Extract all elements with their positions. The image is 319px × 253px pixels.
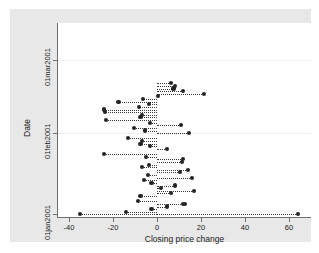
data-point xyxy=(138,194,142,198)
x-tick xyxy=(69,218,70,222)
x-tick-label: 60 xyxy=(269,223,309,232)
data-point xyxy=(142,178,146,182)
spike-line xyxy=(157,162,182,163)
data-point xyxy=(202,92,206,96)
data-point xyxy=(149,181,153,185)
y-tick-label: 01jan2001 xyxy=(43,205,52,240)
y-axis-title: Date xyxy=(22,119,32,137)
gridline xyxy=(58,60,311,61)
x-tick xyxy=(289,218,290,222)
spike-line xyxy=(143,99,157,100)
data-point xyxy=(147,163,151,167)
x-tick-label: 20 xyxy=(181,223,221,232)
spike-line xyxy=(157,133,189,134)
data-point xyxy=(137,105,141,109)
spike-line xyxy=(104,110,157,111)
spike-line xyxy=(126,212,157,213)
data-point xyxy=(165,147,169,151)
spike-line xyxy=(142,141,157,142)
data-point xyxy=(148,121,152,125)
x-tick-label: -40 xyxy=(49,223,89,232)
screenshot-root: -40-200204060 01jan200101feb200101mar200… xyxy=(0,0,319,253)
data-point xyxy=(140,165,144,169)
graph-region: -40-200204060 01jan200101feb200101mar200… xyxy=(10,9,311,242)
data-point xyxy=(173,84,177,88)
x-tick xyxy=(201,218,202,222)
spike-line xyxy=(142,167,157,168)
data-point xyxy=(169,191,173,195)
x-tick xyxy=(113,218,114,222)
spike-line xyxy=(157,191,194,192)
data-point xyxy=(141,97,145,101)
data-point xyxy=(140,139,144,143)
data-point xyxy=(102,152,106,156)
data-point xyxy=(178,170,182,174)
spike-line xyxy=(139,107,157,108)
data-point xyxy=(116,100,120,104)
data-point xyxy=(144,155,148,159)
spike-line xyxy=(119,102,158,103)
data-point xyxy=(140,113,144,117)
spike-line xyxy=(157,170,188,171)
data-point xyxy=(146,173,150,177)
data-point xyxy=(159,186,163,190)
data-point xyxy=(156,94,160,98)
spike-line xyxy=(157,125,181,126)
x-tick-label: -20 xyxy=(93,223,133,232)
plot-area xyxy=(58,23,311,217)
spike-line xyxy=(157,91,183,92)
x-axis-title: Closing price change xyxy=(58,234,311,244)
data-point xyxy=(124,210,128,214)
y-tick-label: 01feb2001 xyxy=(43,124,52,159)
x-tick xyxy=(245,218,246,222)
x-tick-label: 40 xyxy=(225,223,265,232)
spike-line xyxy=(157,178,192,179)
y-tick xyxy=(53,214,57,215)
x-axis-line xyxy=(57,217,311,218)
data-point xyxy=(173,183,177,187)
data-point xyxy=(78,212,82,216)
data-point xyxy=(104,118,108,122)
data-point xyxy=(165,204,169,208)
y-tick xyxy=(53,133,57,134)
data-point xyxy=(181,157,185,161)
data-point xyxy=(148,144,152,148)
spike-line xyxy=(142,115,157,116)
data-point xyxy=(179,123,183,127)
x-tick xyxy=(157,218,158,222)
data-point xyxy=(183,202,187,206)
spike-line xyxy=(104,154,157,155)
data-point xyxy=(149,207,153,211)
data-point xyxy=(126,136,130,140)
spike-line xyxy=(138,201,157,202)
data-point xyxy=(181,89,185,93)
y-tick xyxy=(53,60,57,61)
data-point xyxy=(132,126,136,130)
spike-line xyxy=(157,214,298,215)
data-point xyxy=(296,212,300,216)
spike-line xyxy=(141,196,158,197)
y-axis-line xyxy=(57,23,58,218)
data-point xyxy=(143,128,147,132)
data-point xyxy=(192,189,196,193)
data-point xyxy=(136,199,140,203)
spike-line xyxy=(105,112,157,113)
data-point xyxy=(147,102,151,106)
data-point xyxy=(186,168,190,172)
spike-line xyxy=(157,94,204,95)
data-point xyxy=(187,131,191,135)
y-tick-label: 01mar2001 xyxy=(43,48,52,86)
spike-line xyxy=(157,159,183,160)
data-point xyxy=(190,176,194,180)
spike-line xyxy=(80,214,157,215)
spike-line xyxy=(141,117,158,118)
x-tick-label: 0 xyxy=(137,223,177,232)
spike-line xyxy=(157,172,180,173)
